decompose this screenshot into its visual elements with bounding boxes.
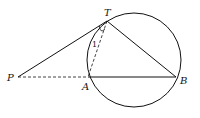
label-t: T [104,7,112,18]
segment-tb [107,21,176,77]
circle [87,13,181,107]
geometry-diagram: T P A B 1 [0,0,200,118]
label-b: B [179,75,187,86]
tangent-segment-pt [18,21,107,77]
angle-label-1: 1 [92,40,97,49]
label-p: P [6,72,14,83]
label-a: A [81,81,89,92]
